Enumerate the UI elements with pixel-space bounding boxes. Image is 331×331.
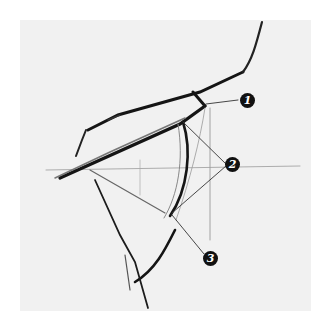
annotation-marker-1: 1 bbox=[240, 93, 255, 108]
annotation-marker-2: 2 bbox=[225, 157, 240, 172]
callout-line-2b bbox=[172, 166, 226, 213]
callout-line-2a bbox=[183, 122, 226, 164]
callout-line-3 bbox=[172, 215, 204, 254]
callout-line-1 bbox=[206, 100, 238, 104]
annotation-marker-3: 3 bbox=[203, 251, 218, 266]
sketch-drawing bbox=[0, 0, 331, 331]
